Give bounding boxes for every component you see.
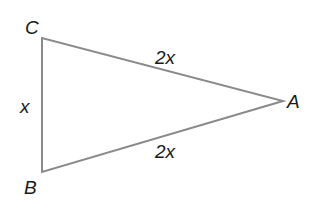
vertex-label-c: C <box>25 17 39 38</box>
side-label-ca: 2x <box>154 47 177 68</box>
side-label-cb: x <box>19 96 31 117</box>
vertex-label-b: B <box>24 177 37 198</box>
vertex-label-a: A <box>286 91 300 112</box>
triangle-diagram: C B A x 2x 2x <box>0 0 318 208</box>
side-label-ba: 2x <box>154 141 177 162</box>
